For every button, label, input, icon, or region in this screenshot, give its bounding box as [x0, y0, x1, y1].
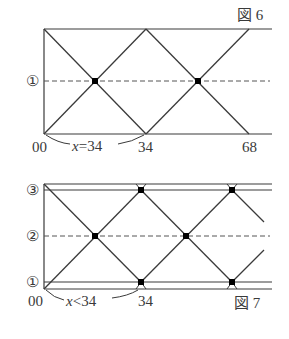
- figure-6-caption: 図 6: [237, 7, 264, 23]
- intersection-dot: [92, 233, 98, 239]
- row-label-1: ①: [26, 274, 39, 290]
- annotation-bracket-left: [46, 135, 70, 144]
- row-label-1: ①: [26, 73, 39, 89]
- figure-7: ③ ② ① 00 34 x<34 図 7: [26, 182, 272, 311]
- axis-label-68: 68: [242, 139, 257, 155]
- axis-label-34: 34: [138, 139, 154, 155]
- intersection-dot: [92, 78, 98, 84]
- diagram-canvas: 図 6 ① 00 34 68 x=34: [0, 0, 289, 339]
- annotation-rel: =34: [79, 138, 103, 154]
- axis-label-00: 00: [32, 139, 47, 155]
- diagonal-line: [44, 190, 141, 289]
- figure-7-caption: 図 7: [234, 295, 261, 311]
- intersection-dot: [138, 187, 144, 193]
- row-label-3: ③: [26, 182, 39, 198]
- diagonal-line: [232, 250, 264, 282]
- intersection-dot: [195, 78, 201, 84]
- annotation-x-lt-34: x<34: [65, 293, 97, 309]
- intersection-dot: [138, 279, 144, 285]
- intersection-dot: [183, 233, 189, 239]
- intersection-dot: [229, 187, 235, 193]
- row-label-2: ②: [26, 228, 39, 244]
- annotation-bracket-right: [112, 290, 138, 298]
- figure-6: 図 6 ① 00 34 68 x=34: [26, 7, 272, 155]
- intersection-dot: [229, 279, 235, 285]
- annotation-rel: <34: [73, 293, 97, 309]
- axis-label-00: 00: [28, 293, 43, 309]
- diagonal-line: [232, 190, 264, 222]
- axis-label-34: 34: [138, 293, 154, 309]
- annotation-x-eq-34: x=34: [71, 138, 103, 154]
- annotation-bracket-left: [46, 290, 64, 300]
